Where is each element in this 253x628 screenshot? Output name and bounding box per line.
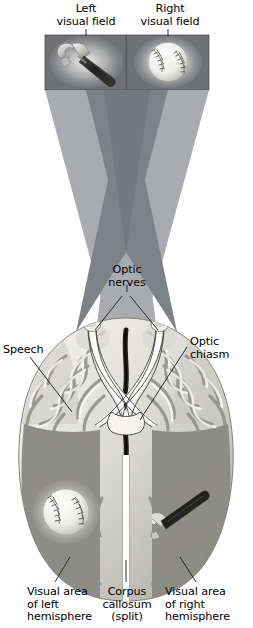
baseball-icon-top [149, 43, 188, 82]
label-right-visual-field: Right visual field [124, 3, 216, 28]
label-visual-area-right: Visual area of right hemisphere [165, 586, 251, 624]
baseball-icon-brain [32, 480, 100, 544]
label-corpus-callosum: Corpus callosum (split) [95, 586, 159, 624]
label-optic-chiasm: Optic chiasm [190, 336, 252, 361]
visual-field-panels [45, 35, 209, 90]
panel-divider [126, 35, 128, 90]
figure-canvas [0, 0, 253, 628]
right-visual-field-panel [127, 35, 209, 90]
split-brain-figure: Left visual field Right visual field Opt… [0, 0, 253, 628]
label-visual-area-left: Visual area of left hemisphere [27, 586, 101, 624]
left-visual-field-panel [45, 35, 126, 90]
visual-field-cones [45, 90, 209, 332]
label-optic-nerves: Optic nerves [92, 264, 162, 289]
label-left-visual-field: Left visual field [40, 3, 132, 28]
label-speech: Speech [3, 344, 63, 357]
